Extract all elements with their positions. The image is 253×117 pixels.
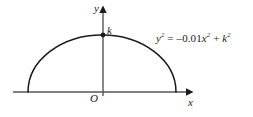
curve-equation: y2 = –0.01x2 + k2 bbox=[156, 33, 231, 44]
equation-term1-coefficient: –0.01 bbox=[177, 32, 202, 44]
ellipse-curve bbox=[28, 35, 176, 92]
vertex-point-marker bbox=[101, 33, 106, 38]
x-axis-arrowhead bbox=[186, 88, 194, 96]
y-axis-label: y bbox=[94, 3, 99, 14]
coordinate-plot bbox=[0, 0, 253, 117]
y-axis-arrowhead bbox=[99, 6, 106, 14]
x-axis-label: x bbox=[188, 97, 193, 108]
math-figure: y k O x y2 = –0.01x2 + k2 bbox=[0, 0, 253, 117]
equation-term2-exponent: 2 bbox=[227, 31, 231, 38]
vertex-value-label: k bbox=[107, 25, 112, 36]
origin-label: O bbox=[90, 93, 98, 104]
